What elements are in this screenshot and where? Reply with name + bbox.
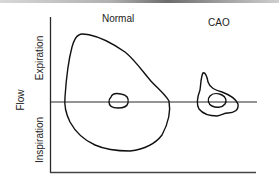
normal-inner-loop xyxy=(109,94,128,108)
panel-label-cao: CAO xyxy=(208,17,230,28)
cao-inner-loop xyxy=(208,94,226,108)
normal-outer-loop xyxy=(65,34,170,151)
cao-outer-loop xyxy=(197,73,238,116)
y-axis-label-expiration: Expiration xyxy=(34,36,45,80)
y-axis-label-inspiration: Inspiration xyxy=(34,117,45,163)
y-axis-title-flow: Flow xyxy=(15,89,26,110)
panel-label-normal: Normal xyxy=(102,13,134,24)
